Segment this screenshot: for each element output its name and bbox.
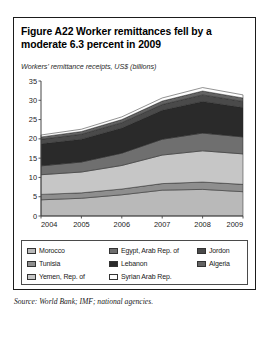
- legend-swatch-icon: [27, 274, 36, 280]
- legend-swatch-icon: [27, 261, 36, 267]
- legend-item-label: Lebanon: [121, 260, 147, 267]
- x-axis-tick-label: 2006: [114, 220, 130, 229]
- figure-source-note: Source: World Bank; IMF; national agenci…: [14, 297, 264, 306]
- y-axis-tick-label: 0: [33, 212, 37, 221]
- chart-legend: MoroccoEgypt, Arab Rep. ofJordonTunisiaL…: [21, 240, 248, 285]
- legend-item[interactable]: Algeria: [197, 257, 245, 270]
- figure-card: Figure A22 Worker remittances fell by a …: [13, 17, 256, 290]
- legend-item[interactable]: Morocco: [27, 244, 109, 257]
- figure-subtitle: Workers' remittance receipts, US$ (billi…: [21, 62, 247, 71]
- legend-item[interactable]: Syrian Arab Rep.: [109, 270, 197, 283]
- chart-plot-area: 05101520253035200420052006200720082009: [21, 75, 249, 233]
- y-axis-tick-label: 20: [29, 134, 37, 143]
- legend-item-label: Tunisia: [39, 260, 60, 267]
- x-axis-tick-label: 2004: [41, 220, 57, 229]
- legend-swatch-icon: [109, 261, 118, 267]
- figure-title: Figure A22 Worker remittances fell by a …: [21, 25, 247, 51]
- x-axis-tick-label: 2008: [194, 220, 210, 229]
- y-axis-tick-label: 25: [29, 115, 37, 124]
- figure-container: Figure A22 Worker remittances fell by a …: [0, 0, 271, 337]
- legend-item[interactable]: Egypt, Arab Rep. of: [109, 244, 197, 257]
- stacked-area-chart: 05101520253035200420052006200720082009: [21, 75, 249, 233]
- legend-item[interactable]: Lebanon: [109, 257, 197, 270]
- legend-item-label: Morocco: [39, 247, 65, 254]
- y-axis-tick-label: 15: [29, 154, 37, 163]
- legend-item-label: Syrian Arab Rep.: [121, 273, 172, 280]
- y-axis-tick-label: 30: [29, 96, 37, 105]
- x-axis-tick-label: 2005: [73, 220, 89, 229]
- legend-swatch-icon: [109, 274, 118, 280]
- legend-swatch-icon: [27, 248, 36, 254]
- x-axis-tick-label: 2009: [227, 220, 243, 229]
- legend-swatch-icon: [197, 261, 206, 267]
- y-axis-tick-label: 10: [29, 173, 37, 182]
- legend-item-label: Algeria: [209, 260, 230, 267]
- legend-swatch-icon: [109, 248, 118, 254]
- y-axis-tick-label: 5: [33, 192, 37, 201]
- legend-item[interactable]: Yemen, Rep. of: [27, 270, 109, 283]
- legend-item-label: Egypt, Arab Rep. of: [121, 247, 179, 254]
- legend-item[interactable]: Tunisia: [27, 257, 109, 270]
- legend-item[interactable]: Jordon: [197, 244, 245, 257]
- x-axis-tick-label: 2007: [154, 220, 170, 229]
- y-axis-tick-label: 35: [29, 77, 37, 86]
- legend-item-label: Yemen, Rep. of: [39, 273, 85, 280]
- legend-swatch-icon: [197, 248, 206, 254]
- legend-item-label: Jordon: [209, 247, 230, 254]
